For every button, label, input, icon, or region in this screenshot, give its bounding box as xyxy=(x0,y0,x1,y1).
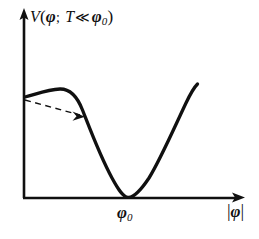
phi-zero-symbol: φ xyxy=(117,203,127,222)
x-axis-label-close-bar: | xyxy=(241,201,245,221)
potential-plot-figure: V(φ; T≪φ0) |φ| φ0 xyxy=(0,0,259,239)
y-axis-label-reference: φ xyxy=(92,7,102,26)
effective-potential-curve xyxy=(25,84,198,197)
y-axis-label-separator: ; xyxy=(56,10,61,25)
phi-zero-subscript: 0 xyxy=(127,211,133,223)
y-axis-label-function: V xyxy=(30,8,40,25)
phi-zero-tick-label: φ0 xyxy=(117,204,132,223)
y-axis-label-variable: φ xyxy=(46,7,56,26)
x-axis-label: |φ| xyxy=(227,202,244,220)
y-axis-label-relation: ≪ xyxy=(74,10,91,25)
x-axis-label-variable: φ xyxy=(231,202,241,221)
rolling-down-arrow-line xyxy=(25,100,80,115)
y-axis-label-close-paren: ) xyxy=(107,7,113,26)
y-axis-label: V(φ; T≪φ0) xyxy=(30,8,113,27)
